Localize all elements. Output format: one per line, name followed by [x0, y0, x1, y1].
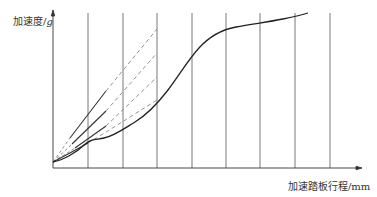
fan-line-4-dashed	[88, 100, 157, 143]
vertical-gridlines	[88, 13, 330, 168]
fan-line-3-dashed	[106, 77, 157, 126]
fan-line-2-dashed	[106, 53, 157, 111]
acceleration-pedal-chart	[0, 0, 377, 197]
fan-line-1-dashed-start	[53, 138, 70, 162]
y-axis-label: 加速度/g	[13, 13, 53, 28]
y-axis-unit: g	[46, 16, 52, 27]
axes	[51, 10, 362, 170]
y-axis-label-text: 加速度/	[13, 16, 46, 27]
main-curve	[53, 13, 308, 162]
fan-lines	[53, 29, 157, 162]
x-axis-label: 加速踏板行程/mm	[288, 178, 370, 193]
x-axis-arrow-icon	[356, 166, 362, 169]
